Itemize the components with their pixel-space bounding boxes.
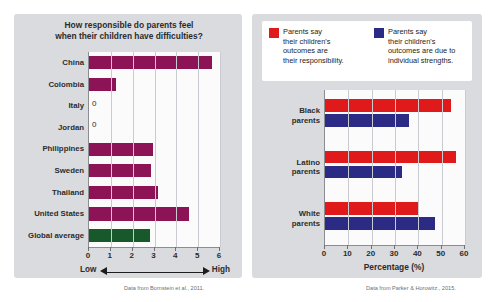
left-chart-tick-label: 5 — [195, 251, 199, 260]
left-chart-zero-value-label: 0 — [92, 120, 96, 129]
right-chart-gridline — [442, 90, 443, 245]
left-chart-tick-label: 6 — [217, 251, 221, 260]
left-chart-bar — [89, 186, 158, 199]
left-chart-bar — [89, 78, 116, 91]
left-chart-zero-value-label: 0 — [92, 99, 96, 108]
right-chart-gridline — [395, 90, 396, 245]
left-chart-panel: How responsible do parents feel when the… — [14, 14, 242, 278]
right-chart-bar — [325, 114, 409, 127]
left-chart-category-label: Philippines — [20, 138, 84, 160]
right-chart-tick-label: 10 — [343, 249, 352, 258]
left-chart-x-tick-labels: 0123456 — [74, 251, 234, 263]
left-chart-bar — [89, 229, 150, 242]
right-chart-gridline — [348, 90, 349, 245]
right-chart-x-axis-label: Percentage (%) — [324, 262, 464, 272]
scale-arrow-line — [107, 272, 203, 273]
right-chart-category-label-line: parents — [254, 116, 320, 126]
left-chart-category-label: United States — [20, 203, 84, 225]
right-chart-tick-label: 20 — [366, 249, 375, 258]
right-chart-tick-label: 60 — [460, 249, 469, 258]
legend-blue-line2: their children's — [388, 37, 435, 46]
legend-red-line4: their responsibility. — [283, 56, 344, 65]
right-chart-tick-label: 50 — [436, 249, 445, 258]
legend-label-individual-strengths: Parents say their children's outcomes ar… — [388, 27, 455, 81]
left-chart-category-label: Global average — [20, 225, 84, 247]
left-chart-category-label: Colombia — [20, 74, 84, 96]
right-chart-category-label: Whiteparents — [254, 193, 320, 245]
legend-swatch-blue-icon — [374, 28, 384, 38]
left-chart-category-label: Jordan — [20, 117, 84, 139]
right-chart-tick-label: 30 — [390, 249, 399, 258]
right-chart-tick-label: 0 — [322, 249, 326, 258]
left-chart-plot-area: 00 — [88, 52, 220, 247]
figure-root: How responsible do parents feel when the… — [0, 0, 492, 302]
right-chart-legend: Parents say their children's outcomes ar… — [262, 21, 472, 81]
left-chart-gridline — [133, 52, 134, 247]
legend-red-line2: their children's — [283, 37, 330, 46]
legend-red-line1: Parents say — [283, 27, 322, 36]
legend-red-line3: outcomes are — [283, 46, 328, 55]
left-chart-gridline — [220, 52, 221, 247]
arrow-left-icon — [100, 267, 107, 275]
left-chart-bar — [89, 164, 151, 177]
legend-blue-line1: Parents say — [388, 27, 427, 36]
right-chart-gridline — [465, 90, 466, 245]
left-chart-x-axis — [88, 247, 219, 248]
left-chart-bar — [89, 56, 212, 69]
left-chart-bar — [89, 143, 153, 156]
legend-blue-line3: outcomes are due to — [388, 46, 455, 55]
legend-item-responsibility: Parents say their children's outcomes ar… — [262, 21, 367, 81]
right-chart-category-label: Blackparents — [254, 90, 320, 142]
left-chart-gridline — [198, 52, 199, 247]
left-chart-category-labels: ChinaColombiaItalyJordanPhilippinesSwede… — [20, 52, 84, 247]
legend-swatch-red-icon — [269, 28, 279, 38]
left-chart-category-label: Sweden — [20, 160, 84, 182]
right-chart-x-tick-labels: 0102030405060 — [304, 249, 484, 261]
right-chart-credit: Data from Parker & Horowitz., 2015. — [366, 285, 456, 291]
right-chart-category-label-line: White — [254, 209, 320, 219]
left-chart-gridline — [176, 52, 177, 247]
right-chart-category-label-line: parents — [254, 167, 320, 177]
right-chart-bar — [325, 166, 402, 179]
left-chart-title-line1: How responsible do parents feel — [24, 20, 234, 31]
left-chart-gridline — [155, 52, 156, 247]
left-chart-category-label: Thailand — [20, 182, 84, 204]
arrow-right-icon — [203, 267, 210, 275]
right-chart-category-label-line: Black — [254, 106, 320, 116]
right-chart-plot-area — [324, 90, 465, 245]
right-chart-panel: Parents say their children's outcomes ar… — [252, 14, 482, 278]
scale-low-label: Low — [80, 265, 96, 274]
left-chart-scale-indicator: Low High — [80, 264, 230, 278]
right-chart-category-label-line: Latino — [254, 158, 320, 168]
left-chart-tick-label: 0 — [86, 251, 90, 260]
right-chart-bar — [325, 151, 456, 164]
right-chart-tick-label: 40 — [413, 249, 422, 258]
left-chart-category-label: China — [20, 52, 84, 74]
right-chart-gridline — [372, 90, 373, 245]
legend-item-individual-strengths: Parents say their children's outcomes ar… — [367, 21, 472, 81]
legend-label-responsibility: Parents say their children's outcomes ar… — [283, 27, 344, 81]
right-chart-category-labels: BlackparentsLatinoparentsWhiteparents — [254, 90, 320, 245]
right-chart-x-axis — [324, 245, 464, 246]
right-chart-gridline — [418, 90, 419, 245]
left-chart-gridline — [111, 52, 112, 247]
left-chart-title-line2: when their children have difficulties? — [24, 31, 234, 42]
left-chart-category-label: Italy — [20, 95, 84, 117]
right-chart-bar — [325, 99, 451, 112]
right-chart-category-label: Latinoparents — [254, 142, 320, 194]
left-chart-credit: Data from Bornstein et al., 2011. — [124, 285, 204, 291]
left-chart-title: How responsible do parents feel when the… — [24, 20, 234, 41]
left-chart-tick-label: 2 — [129, 251, 133, 260]
left-chart-tick-label: 1 — [108, 251, 112, 260]
scale-high-label: High — [212, 265, 230, 274]
legend-blue-line4: individual strengths. — [388, 56, 453, 65]
left-chart-tick-label: 4 — [173, 251, 177, 260]
left-chart-bar — [89, 207, 189, 220]
left-chart-tick-label: 3 — [151, 251, 155, 260]
right-chart-category-label-line: parents — [254, 219, 320, 229]
